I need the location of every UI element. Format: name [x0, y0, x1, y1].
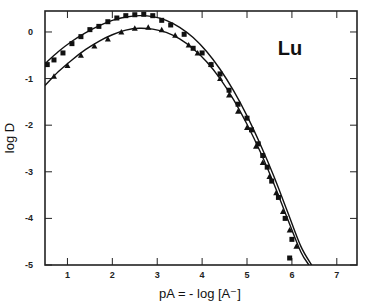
data-point-square: [132, 12, 137, 17]
data-point-square: [150, 13, 155, 18]
y-tick-label: -5: [25, 260, 33, 270]
data-point-triangle: [105, 36, 111, 42]
data-point-square: [105, 19, 110, 24]
chart: 1234567 0-1-2-3-4-5 Lu pA = - log [A⁻] l…: [0, 0, 367, 307]
plot-area: [45, 12, 312, 265]
plot-frame: [45, 11, 357, 265]
data-point-square: [96, 24, 101, 29]
data-point-square: [283, 216, 288, 221]
y-axis-ticks: 0-1-2-3-4-5: [25, 27, 357, 270]
series-line-lower-fit: [45, 28, 309, 265]
data-point-square: [200, 50, 205, 55]
data-point-square: [287, 256, 292, 261]
data-point-square: [182, 32, 187, 37]
x-tick-label: 2: [110, 270, 115, 280]
data-point-square: [87, 27, 92, 32]
data-point-square: [45, 62, 50, 67]
series-layer: [45, 12, 312, 265]
x-tick-label: 3: [155, 270, 160, 280]
annotation-label: Lu: [278, 37, 302, 59]
y-tick-label: -3: [25, 167, 33, 177]
data-point-triangle: [266, 173, 272, 179]
data-point-square: [69, 41, 74, 46]
x-tick-label: 4: [200, 270, 205, 280]
data-point-square: [269, 179, 274, 184]
data-point-square: [159, 18, 164, 23]
data-point-square: [51, 57, 56, 62]
data-point-triangle: [273, 190, 279, 196]
data-point-square: [260, 153, 265, 158]
y-tick-label: -1: [25, 74, 33, 84]
data-point-triangle: [145, 24, 151, 30]
y-tick-label: -4: [25, 213, 33, 223]
data-point-triangle: [159, 27, 165, 32]
data-point-square: [276, 195, 281, 200]
data-point-square: [265, 165, 270, 170]
y-tick-label: 0: [28, 27, 33, 37]
data-point-square: [123, 13, 128, 18]
data-point-square: [289, 237, 294, 242]
data-point-square: [141, 12, 146, 17]
data-point-square: [191, 46, 196, 51]
x-tick-label: 6: [289, 270, 294, 280]
data-point-square: [78, 34, 83, 39]
data-point-square: [114, 15, 119, 20]
data-point-square: [245, 116, 250, 121]
series-line-upper-fit: [45, 16, 312, 265]
plot-border: [45, 11, 357, 265]
x-tick-label: 5: [245, 270, 250, 280]
data-point-square: [60, 50, 65, 55]
x-tick-label: 7: [334, 270, 339, 280]
x-axis-title: pA = - log [A⁻]: [159, 286, 241, 301]
x-tick-label: 1: [65, 270, 70, 280]
y-tick-label: -2: [25, 120, 33, 130]
y-axis-title: log D: [2, 123, 17, 153]
data-point-square: [168, 22, 173, 27]
data-point-square: [236, 102, 241, 107]
